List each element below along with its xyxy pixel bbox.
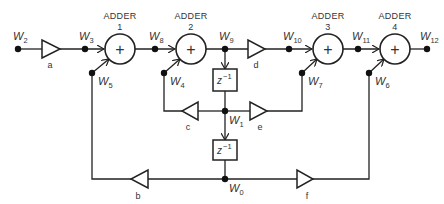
multiplier-a — [42, 40, 60, 58]
node-w9 — [222, 46, 228, 52]
delay-2-z: z — [216, 145, 222, 156]
label-w6: W6 — [375, 75, 390, 90]
delay-1-z: z — [216, 75, 222, 86]
label-w10: W10 — [283, 30, 302, 45]
label-w7: W7 — [308, 75, 323, 90]
adder-1-title: ADDER — [103, 11, 136, 21]
adder-2-number: 2 — [188, 22, 193, 32]
delay-2-exponent: −1 — [223, 142, 232, 151]
label-w11: W11 — [352, 30, 370, 45]
adder-3-number: 3 — [325, 22, 330, 32]
gain-label-e: e — [257, 122, 262, 132]
gain-label-b: b — [135, 191, 140, 201]
multiplier-e — [250, 102, 267, 120]
gain-label-d: d — [253, 60, 258, 70]
adder-3-plus: + — [323, 41, 332, 58]
node-w1 — [222, 108, 228, 114]
node-w8 — [152, 46, 158, 52]
node-w3 — [82, 46, 88, 52]
label-w0: W0 — [229, 182, 244, 197]
node-w5 — [89, 70, 95, 76]
label-w9: W9 — [219, 30, 234, 45]
adder-4-plus: + — [390, 41, 399, 58]
node-w7 — [299, 70, 305, 76]
label-w8: W8 — [149, 30, 164, 45]
node-w2 — [15, 46, 21, 52]
wire-w5-to-adder1 — [92, 59, 109, 73]
label-w4: W4 — [170, 75, 185, 90]
label-w12: W12 — [420, 30, 439, 45]
label-w5: W5 — [98, 75, 113, 90]
multiplier-c — [182, 102, 198, 120]
multiplier-b — [131, 170, 148, 188]
label-w2: W2 — [13, 30, 28, 45]
node-w0 — [222, 176, 228, 182]
gain-label-a: a — [47, 60, 52, 70]
gain-label-f: f — [306, 191, 309, 201]
label-w3: W3 — [79, 30, 94, 45]
wire-e-to-w7 — [267, 73, 302, 111]
adder-1-plus: + — [115, 41, 124, 58]
node-w6 — [366, 70, 372, 76]
multiplier-d — [248, 40, 265, 58]
label-w1: W1 — [229, 114, 244, 129]
adder-4-title: ADDER — [378, 11, 411, 21]
adder-2-title: ADDER — [174, 11, 207, 21]
gain-label-c: c — [186, 122, 191, 132]
adder-4-number: 4 — [392, 22, 397, 32]
adder-2-plus: + — [186, 41, 195, 58]
adder-3-title: ADDER — [311, 11, 344, 21]
node-w4 — [161, 70, 167, 76]
node-w12 — [424, 46, 430, 52]
filter-block-diagram: + + + + ADDER 1 ADDER 2 ADDER 3 ADDER 4 … — [0, 0, 444, 204]
delay-1-exponent: −1 — [223, 72, 232, 81]
node-w10 — [286, 46, 292, 52]
multiplier-f — [297, 170, 313, 188]
adder-1-number: 1 — [117, 22, 122, 32]
node-w11 — [355, 46, 361, 52]
